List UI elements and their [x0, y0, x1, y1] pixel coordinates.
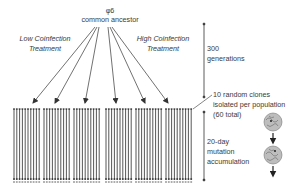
ancestor-arrows	[33, 27, 168, 103]
clones-connector	[193, 95, 212, 109]
population-block	[73, 108, 100, 182]
plaque-icon-1	[264, 113, 282, 131]
arrow-low-1	[33, 27, 95, 103]
generations-timeline	[203, 23, 205, 98]
arrow-low-2	[55, 27, 97, 103]
plaque-icon-2	[264, 146, 282, 164]
population-blocks	[13, 108, 192, 182]
experiment-diagram: φ6 common ancestor Low Coinfection Treat…	[0, 0, 298, 196]
population-block	[43, 108, 70, 182]
population-block	[105, 108, 132, 182]
population-block	[135, 108, 162, 182]
arrow-low-3	[85, 27, 99, 103]
diagram-graphics	[0, 0, 298, 196]
population-block	[165, 108, 192, 182]
mutation-timeline	[203, 111, 205, 181]
arrow-high-1	[108, 27, 116, 103]
population-block	[13, 108, 40, 182]
